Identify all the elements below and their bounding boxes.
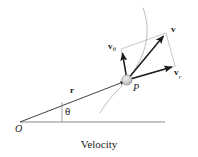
construction-line-vr-to-v — [166, 33, 175, 66]
angle-theta-label: θ — [65, 106, 70, 117]
point-p-label: P — [133, 83, 139, 93]
velocity-polar-coordinates-figure: v vr vθ r θ P O Velocity — [0, 0, 198, 157]
velocity-transverse-label-subscript: θ — [113, 45, 116, 52]
origin-label: O — [15, 124, 22, 134]
velocity-radial-label-subscript: r — [179, 74, 181, 80]
velocity-vector-v-r — [127, 67, 172, 80]
particle-marker — [122, 75, 132, 85]
velocity-radial-label: vr — [174, 68, 181, 79]
velocity-transverse-label-base: v — [108, 41, 113, 51]
velocity-radial-label-base: v — [174, 67, 179, 77]
position-vector-label: r — [70, 86, 74, 95]
velocity-vector-v — [127, 36, 164, 80]
figure-caption: Velocity — [0, 138, 198, 150]
velocity-vector-label: v — [171, 25, 176, 34]
velocity-transverse-label: vθ — [108, 42, 116, 51]
velocity-diagram-canvas — [0, 0, 198, 157]
